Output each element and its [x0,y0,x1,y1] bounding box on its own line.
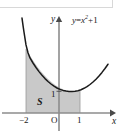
origin-label: O [51,116,58,125]
shaded-region-s [26,49,80,113]
y-axis-label: y [51,15,55,25]
x-tick-label-minus-two: −2 [19,116,29,125]
math-figure: y=x2+1 y x 1 S −2 O 1 [0,0,122,133]
x-tick-label-one: 1 [77,116,82,125]
x-axis-label: x [112,117,116,127]
region-label-s: S [37,97,43,107]
parabola-plot [0,0,122,133]
y-axis-arrowhead [56,16,62,22]
y-intercept-label: 1 [51,90,56,99]
curve-equation-label: y=x2+1 [72,14,98,25]
